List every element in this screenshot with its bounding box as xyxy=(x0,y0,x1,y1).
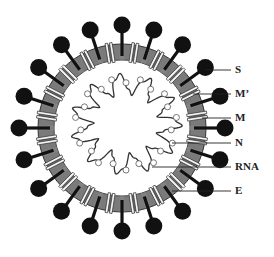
nucleocapsid-protein xyxy=(110,161,116,167)
spike-head xyxy=(174,203,191,220)
spike-head xyxy=(174,36,191,53)
nucleocapsid-protein xyxy=(137,77,143,83)
nucleocapsid-protein xyxy=(161,91,167,97)
spike-head xyxy=(82,22,99,39)
coronavirus-diagram xyxy=(0,0,274,257)
spike-head xyxy=(197,180,214,197)
spike-head xyxy=(82,217,99,234)
spike-head xyxy=(211,88,228,105)
spike-head xyxy=(145,22,162,39)
nucleocapsid-protein xyxy=(78,127,84,133)
spike-head xyxy=(211,151,228,168)
spike-head xyxy=(145,217,162,234)
label-M-prime: M’ xyxy=(235,88,249,99)
nucleocapsid-protein xyxy=(95,160,101,166)
nucleocapsid-protein xyxy=(88,148,94,154)
spike-head xyxy=(217,120,234,137)
spike-head xyxy=(16,151,33,168)
spike-head xyxy=(197,59,214,76)
nucleocapsid-protein xyxy=(109,77,115,83)
nucleocapsid-protein xyxy=(81,104,87,110)
spike-head xyxy=(16,88,33,105)
nucleocapsid-protein xyxy=(165,104,171,110)
viral-envelope xyxy=(38,44,206,212)
nucleocapsid-protein xyxy=(136,161,142,167)
nucleocapsid-protein xyxy=(148,86,154,92)
nucleocapsid-protein xyxy=(85,91,91,97)
label-RNA: RNA xyxy=(235,161,259,172)
spike-head xyxy=(114,223,131,240)
label-N: N xyxy=(235,137,243,148)
label-M: M xyxy=(235,112,245,123)
spike-head xyxy=(53,203,70,220)
nucleocapsid-protein xyxy=(173,114,179,120)
nucleocapsid-protein xyxy=(77,140,83,146)
spike-head xyxy=(30,59,47,76)
nucleocapsid-protein xyxy=(158,148,164,154)
spike-head xyxy=(114,17,131,34)
nucleocapsid-protein xyxy=(123,80,129,86)
label-S: S xyxy=(235,64,241,75)
nucleocapsid-protein xyxy=(168,127,174,133)
spike-head xyxy=(11,120,28,137)
nucleocapsid-protein xyxy=(98,86,104,92)
nucleocapsid-protein xyxy=(151,160,157,166)
spike-head xyxy=(30,180,47,197)
nucleocapsid-protein xyxy=(73,114,79,120)
spike-head xyxy=(53,36,70,53)
nucleocapsid-protein xyxy=(123,167,129,173)
label-E: E xyxy=(235,185,242,196)
